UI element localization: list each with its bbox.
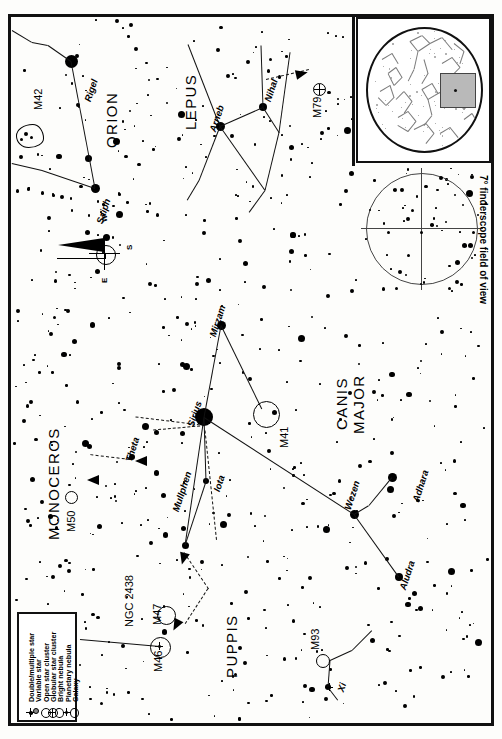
background-star [51, 575, 55, 579]
background-star [90, 322, 95, 327]
background-star [221, 680, 223, 682]
background-star [450, 671, 452, 673]
background-star [200, 560, 204, 564]
background-star [267, 69, 271, 73]
background-star [260, 318, 263, 321]
background-star [148, 713, 150, 715]
inset-star-dot [438, 83, 439, 84]
background-star [392, 514, 396, 518]
background-star [342, 36, 344, 38]
inset-star-dot [369, 111, 370, 112]
inset-star-dot [405, 127, 406, 128]
inset-star-dot [435, 123, 436, 124]
background-star [92, 568, 95, 571]
m50-open-cluster-symbol [65, 491, 78, 504]
m79-globular-symbol [313, 83, 326, 96]
background-star [147, 519, 149, 521]
m42-core-star [20, 138, 23, 141]
inset-star-dot [462, 63, 463, 64]
inset-star-dot [440, 134, 441, 135]
background-star [127, 691, 130, 694]
inset-star-dot [414, 66, 415, 67]
background-star [122, 27, 124, 29]
inset-constellation-stroke [426, 133, 435, 144]
inset-constellation-stroke [392, 53, 399, 64]
background-star [452, 569, 454, 571]
background-star [283, 556, 285, 558]
background-star [29, 400, 33, 404]
inset-star-dot [459, 57, 460, 58]
background-star [47, 603, 49, 605]
background-star [219, 362, 221, 364]
inset-constellation-stroke [414, 123, 426, 130]
background-star [381, 394, 384, 397]
object-label-m50: M50 [66, 511, 77, 532]
inset-constellation-stroke [460, 51, 465, 63]
background-star [143, 446, 145, 448]
inset-constellation-stroke [408, 121, 417, 132]
background-star [254, 525, 256, 527]
background-star [168, 335, 170, 337]
background-star [248, 377, 252, 381]
background-star [373, 438, 375, 440]
inset-constellation-stroke [430, 37, 442, 44]
finderscope-star [436, 225, 438, 227]
inset-star-dot [376, 104, 378, 106]
background-star [344, 334, 348, 338]
background-star [349, 542, 351, 544]
finderscope-star [448, 287, 451, 290]
background-star [193, 40, 195, 42]
background-star [227, 513, 231, 517]
background-star [90, 277, 92, 279]
inset-star-dot [383, 66, 384, 67]
inset-star-dot [462, 31, 463, 32]
background-star [403, 704, 407, 708]
background-star [72, 463, 74, 465]
background-star [38, 371, 41, 374]
background-star [19, 155, 23, 159]
background-star [441, 353, 443, 355]
background-star [291, 529, 293, 531]
background-star [183, 363, 190, 370]
background-star [470, 569, 473, 572]
background-star [262, 285, 266, 289]
background-star [324, 697, 328, 701]
background-star [462, 638, 465, 641]
background-star [336, 441, 338, 443]
background-star [66, 309, 70, 313]
inset-star-dot [371, 134, 372, 135]
inset-constellation-stroke [396, 91, 405, 100]
constellation-label-puppis: PUPPIS [224, 615, 239, 678]
background-star [265, 432, 267, 434]
background-star [221, 564, 223, 566]
background-star [345, 566, 349, 570]
background-star [405, 602, 410, 607]
background-star [263, 609, 266, 612]
legend-label-galaxy: Galaxy [71, 678, 80, 702]
background-star [72, 339, 77, 344]
background-star [238, 239, 242, 243]
background-star [426, 561, 429, 564]
background-star [184, 510, 186, 512]
background-star [61, 352, 66, 357]
constellation-label-orion: ORION [104, 92, 119, 148]
background-star [97, 234, 99, 236]
background-star [177, 137, 181, 141]
background-star [147, 94, 149, 96]
all-sky-inset-map [356, 17, 491, 163]
background-star [117, 366, 121, 370]
background-star [306, 526, 308, 528]
background-star [390, 451, 394, 455]
finderscope-star [445, 221, 447, 223]
background-star [118, 192, 121, 195]
background-star [367, 624, 370, 627]
background-star [425, 343, 427, 345]
background-star [373, 179, 376, 182]
background-star [135, 490, 137, 492]
background-star [202, 231, 206, 235]
legend-variable-star-symbol [33, 708, 39, 714]
background-star [39, 561, 41, 563]
background-star [388, 650, 391, 653]
inset-constellation-stroke [472, 113, 479, 124]
background-star [82, 75, 84, 77]
